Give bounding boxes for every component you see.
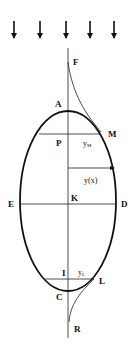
upper-meniscus-curve [68, 62, 101, 132]
label-A: A [55, 99, 62, 109]
label-M: M [108, 129, 117, 139]
down-arrows [14, 21, 114, 38]
label-F: F [73, 57, 79, 67]
label-yx: y(x) [84, 176, 98, 185]
diagram-canvas: F A M P yM y(x) E K D I yL L C R [0, 0, 135, 351]
label-C: C [56, 292, 63, 302]
label-R: R [74, 324, 81, 334]
label-E: E [8, 199, 14, 209]
label-D: D [121, 199, 128, 209]
label-yM: yM [83, 139, 92, 148]
label-I: I [62, 268, 66, 278]
label-K: K [71, 193, 78, 203]
label-P: P [56, 138, 62, 148]
lower-meniscus-curve [69, 279, 94, 322]
label-yL: yL [78, 268, 85, 277]
label-L: L [99, 276, 105, 286]
